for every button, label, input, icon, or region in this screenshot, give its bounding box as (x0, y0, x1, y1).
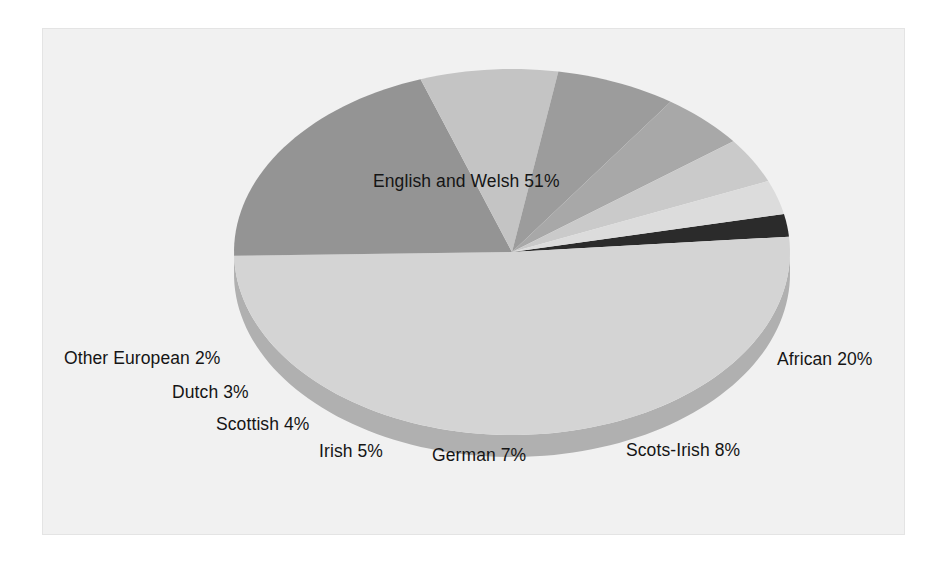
pie-label-irish: Irish 5% (319, 442, 383, 461)
pie-label-german: German 7% (432, 446, 526, 465)
pie-chart: Other European 2%English and Welsh 51%Af… (0, 0, 935, 563)
pie-label-english-and-welsh: English and Welsh 51% (373, 172, 560, 191)
pie-slices (234, 69, 790, 435)
pie-label-scottish: Scottish 4% (216, 415, 310, 434)
pie-label-african: African 20% (777, 350, 872, 369)
pie-label-scots-irish: Scots-Irish 8% (626, 441, 740, 460)
pie-chart-svg (0, 0, 935, 563)
pie-label-other-european: Other European 2% (64, 349, 220, 368)
figure-container: Other European 2%English and Welsh 51%Af… (0, 0, 935, 563)
pie-slice-english-and-welsh[interactable] (234, 237, 790, 435)
pie-label-dutch: Dutch 3% (172, 383, 249, 402)
